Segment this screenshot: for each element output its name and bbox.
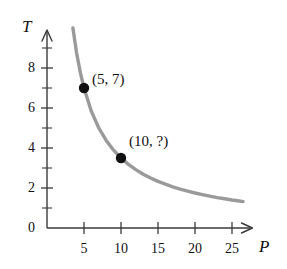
curve-path — [73, 28, 243, 202]
x-axis-tick-label: 5 — [72, 242, 96, 256]
data-point-label: (5, 7) — [92, 72, 125, 87]
data-point-marker — [116, 153, 126, 163]
y-axis-tick-label: 8 — [19, 61, 35, 75]
y-axis-tick-label: 6 — [19, 101, 35, 115]
data-curve-group — [73, 28, 243, 202]
x-axis-tick-label: 25 — [220, 242, 244, 256]
chart-figure: T P 02468 510152025 (5, 7)(10, ?) — [0, 0, 287, 269]
data-point-label: (10, ?) — [129, 134, 168, 149]
x-axis-tick-label: 20 — [183, 242, 207, 256]
y-axis-tick-label: 4 — [19, 141, 35, 155]
x-axis-tick-label: 15 — [146, 242, 170, 256]
x-axis-tick-label: 10 — [109, 242, 133, 256]
y-axis-tick-label: 0 — [19, 221, 35, 235]
y-axis-label: T — [22, 18, 31, 35]
data-point-marker — [79, 83, 89, 93]
axes-group — [42, 30, 253, 233]
x-axis-label: P — [259, 238, 269, 255]
y-axis-tick-label: 2 — [19, 181, 35, 195]
